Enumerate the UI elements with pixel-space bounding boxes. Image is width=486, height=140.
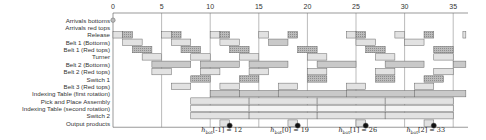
gantt-bar bbox=[424, 76, 443, 82]
gantt-bar bbox=[346, 32, 356, 38]
gantt-bar bbox=[366, 46, 385, 52]
gantt-bar bbox=[434, 68, 453, 74]
gantt-bar bbox=[356, 39, 375, 45]
gantt-bar bbox=[210, 32, 220, 38]
gantt-bar bbox=[278, 83, 297, 89]
gantt-bar bbox=[317, 105, 385, 111]
gantt-bar bbox=[239, 91, 278, 97]
gantt-bar bbox=[414, 91, 466, 97]
gantt-bar bbox=[249, 105, 317, 111]
gantt-bar bbox=[171, 39, 190, 45]
gantt-bar bbox=[249, 98, 317, 104]
gantt-bar bbox=[220, 83, 239, 89]
gantt-bar bbox=[132, 46, 151, 52]
gantt-bar bbox=[181, 46, 200, 52]
gantt-bar bbox=[113, 32, 123, 38]
gantt-bar bbox=[298, 46, 317, 52]
gantt-bar bbox=[191, 113, 249, 119]
gantt-bar bbox=[191, 54, 210, 60]
gantt-bar bbox=[414, 83, 433, 89]
h-bot-annotation: hbot[-1] = 12 bbox=[201, 126, 242, 135]
gantt-bar bbox=[405, 39, 424, 45]
gantt-bar bbox=[200, 68, 219, 74]
gantt-bar bbox=[463, 32, 466, 38]
gantt-bar bbox=[307, 68, 326, 74]
gantt-bar bbox=[375, 76, 394, 82]
gantt-bar bbox=[317, 61, 356, 67]
gantt-bar bbox=[424, 32, 434, 38]
gantt-bar bbox=[434, 46, 453, 52]
gantt-bar bbox=[210, 91, 239, 97]
gantt-bar bbox=[385, 61, 424, 67]
gantt-bar bbox=[230, 46, 249, 52]
gantt-bar bbox=[220, 32, 230, 38]
gantt-bar bbox=[375, 68, 394, 74]
gantt-bar bbox=[453, 61, 466, 67]
gantt-bar bbox=[346, 91, 414, 97]
gantt-bar bbox=[171, 83, 190, 89]
gantt-bar bbox=[288, 32, 298, 38]
gantt-bar bbox=[346, 83, 365, 89]
gantt-bar bbox=[356, 32, 366, 38]
gantt-bar bbox=[239, 54, 258, 60]
h-bot-annotation: hbot[0] = 19 bbox=[270, 126, 309, 135]
gantt-bar bbox=[249, 113, 317, 119]
gantt-bar bbox=[152, 61, 191, 67]
gantt-bar bbox=[162, 32, 172, 38]
gantt-bar bbox=[307, 76, 326, 82]
gantt-bar bbox=[317, 98, 385, 104]
gantt-bar bbox=[269, 39, 288, 45]
h-bot-annotation: hbot[2] = 33 bbox=[406, 126, 445, 135]
gantt-bar bbox=[123, 39, 142, 45]
gantt-chart bbox=[0, 0, 486, 140]
gantt-bar bbox=[123, 32, 133, 38]
gantt-bar bbox=[142, 54, 161, 60]
gantt-bar bbox=[375, 54, 394, 60]
gantt-bar bbox=[385, 113, 453, 119]
gantt-bar bbox=[249, 68, 268, 74]
gantt-bar bbox=[249, 61, 288, 67]
gantt-bar bbox=[385, 98, 453, 104]
gantt-bar bbox=[278, 91, 346, 97]
gantt-bar bbox=[191, 76, 210, 82]
gantt-bar bbox=[239, 76, 258, 82]
gantt-bar bbox=[171, 32, 181, 38]
gantt-bar bbox=[317, 113, 385, 119]
gantt-bar bbox=[395, 32, 405, 38]
gantt-bar bbox=[307, 54, 326, 60]
gantt-bar bbox=[220, 39, 239, 45]
gantt-bar bbox=[385, 105, 453, 111]
gantt-bar bbox=[434, 54, 453, 60]
h-bot-annotation: hbot[1] = 26 bbox=[338, 126, 377, 135]
arrival-marker bbox=[111, 18, 115, 22]
gantt-bar bbox=[200, 61, 239, 67]
gantt-bar bbox=[191, 98, 249, 104]
gantt-bar bbox=[152, 68, 171, 74]
gantt-bar bbox=[191, 105, 249, 111]
gantt-bar bbox=[259, 32, 269, 38]
